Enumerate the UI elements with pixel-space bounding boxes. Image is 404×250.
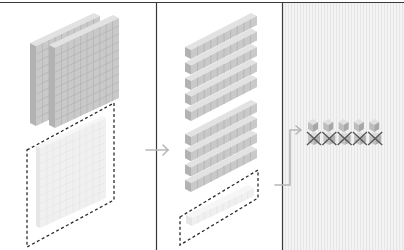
exchanged-tens-rod <box>186 185 254 226</box>
cross-out-icon <box>338 132 352 145</box>
cross-out-icon <box>322 132 336 145</box>
hundreds-panel <box>27 13 119 247</box>
cross-out-icon <box>307 132 321 145</box>
cross-out-icon <box>368 132 382 145</box>
exchanged-hundreds-flat <box>36 116 106 228</box>
tens-panel <box>180 13 258 245</box>
cross-out-icon <box>353 132 367 145</box>
base-ten-regrouping-diagram <box>0 0 404 250</box>
